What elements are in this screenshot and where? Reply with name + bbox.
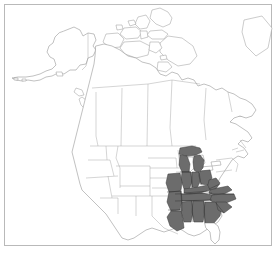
island-devon [147, 30, 168, 39]
region-north-america-mainland [72, 44, 256, 240]
north-america-map [0, 0, 278, 253]
island-melville [120, 27, 142, 39]
island-somerset [140, 31, 148, 39]
island-kodiak [56, 72, 63, 76]
region-alaska [12, 27, 96, 81]
range-state-north-carolina [210, 194, 236, 203]
figure-container [0, 0, 278, 253]
lake-ontario [211, 161, 221, 166]
island-greenland-edge [242, 16, 272, 56]
island-aleutian-1 [22, 79, 26, 81]
island-baffin [160, 36, 197, 66]
island-aleutian-2 [14, 78, 18, 80]
island-axel-heiberg [135, 15, 150, 29]
island-small-arctic-b [116, 25, 123, 30]
region-florida-unshaded [205, 223, 220, 244]
island-ellesmere [150, 8, 172, 27]
range-state-missouri [166, 173, 182, 194]
island-small-arctic-c [160, 55, 167, 60]
island-southampton [157, 62, 172, 72]
range-state-alabama [192, 201, 205, 222]
island-queen-charlotte [74, 88, 84, 96]
border-east-coast-inner [232, 158, 238, 172]
map-layer-florida [205, 223, 220, 244]
island-small-arctic-a [128, 20, 136, 26]
